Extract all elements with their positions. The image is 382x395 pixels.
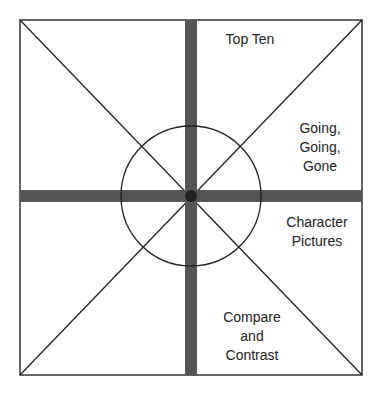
label-line: Compare bbox=[207, 308, 297, 327]
label-top-ten: Top Ten bbox=[210, 30, 290, 49]
organizer-diagram bbox=[0, 0, 382, 395]
label-going-going-gone: Going, Going, Gone bbox=[285, 119, 355, 176]
label-line: Character bbox=[272, 213, 362, 232]
label-character-pictures: Character Pictures bbox=[272, 213, 362, 251]
label-line: Going, bbox=[285, 119, 355, 138]
center-point bbox=[185, 190, 197, 202]
label-line: and bbox=[207, 327, 297, 346]
label-line: Top Ten bbox=[210, 30, 290, 49]
label-line: Pictures bbox=[272, 232, 362, 251]
label-compare-contrast: Compare and Contrast bbox=[207, 308, 297, 365]
label-line: Contrast bbox=[207, 346, 297, 365]
label-line: Gone bbox=[285, 157, 355, 176]
label-line: Going, bbox=[285, 138, 355, 157]
